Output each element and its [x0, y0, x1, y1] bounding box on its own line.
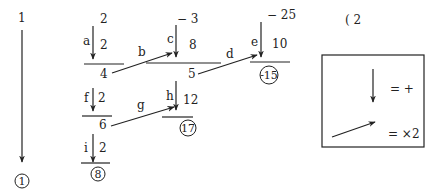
block-e-label: e	[251, 35, 258, 49]
block-c-sum: 5	[188, 67, 196, 81]
diagonal-label-b: b	[138, 45, 146, 59]
start-value: 1	[18, 11, 26, 25]
block-i-addend: 2	[99, 141, 107, 155]
stray-mark: ( 2	[345, 13, 361, 27]
block-h-result: 17	[181, 122, 195, 135]
block-a-addend: 2	[100, 38, 108, 52]
legend-diagonal-arrow-meaning: = ×2	[388, 127, 420, 141]
block-a-label: a	[83, 34, 90, 48]
legend-down-arrow-meaning: = +	[390, 82, 414, 96]
block-h-label: h	[166, 89, 174, 103]
block-c-top: − 3	[177, 12, 199, 26]
block-f-label: f	[84, 91, 90, 105]
block-i-label: i	[84, 141, 88, 155]
arrow-arithmetic-diagram: 1 1 2 a 2 4 b f 2 6 g i 2 8 − 3 c 8 5 d …	[0, 0, 438, 194]
block-f-sum: 6	[99, 118, 107, 132]
block-i-result: 8	[95, 168, 102, 181]
legend-diagonal-arrow-icon	[332, 122, 375, 137]
block-f-addend: 2	[98, 91, 106, 105]
block-c-label: c	[167, 32, 174, 46]
block-a-top: 2	[100, 12, 108, 26]
diagonal-label-g: g	[137, 98, 145, 112]
start-result: 1	[19, 175, 26, 188]
block-h-addend: 12	[183, 93, 198, 107]
block-e-result: -15	[260, 69, 278, 82]
block-a-sum: 4	[100, 67, 108, 81]
diagonal-label-d: d	[226, 47, 234, 61]
block-e-top: − 25	[267, 8, 296, 22]
block-e-addend: 10	[272, 37, 287, 51]
block-c-addend: 8	[189, 38, 197, 52]
